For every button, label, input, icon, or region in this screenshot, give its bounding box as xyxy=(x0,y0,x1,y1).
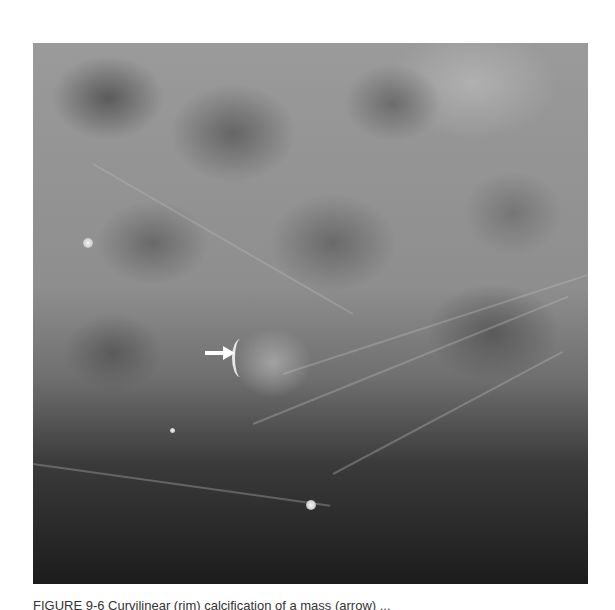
mammogram-image xyxy=(33,43,588,584)
tissue-strand xyxy=(283,274,588,375)
figure-caption: FIGURE 9-6 Curvilinear (rim) calcificati… xyxy=(33,596,603,610)
tissue-strand xyxy=(33,463,330,507)
calcification-spot xyxy=(170,428,175,433)
calcification-spot xyxy=(306,500,316,510)
calcification-spot xyxy=(83,238,93,248)
tissue-strand xyxy=(333,351,564,475)
tissue-strand xyxy=(93,163,354,315)
tissue-strand xyxy=(253,296,569,425)
arrow-right-icon xyxy=(205,346,235,360)
